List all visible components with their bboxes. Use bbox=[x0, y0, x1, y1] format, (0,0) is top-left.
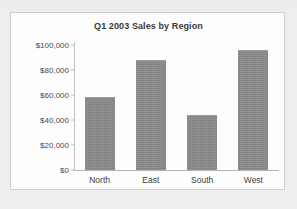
bar-group: South bbox=[177, 13, 228, 191]
bar bbox=[187, 115, 217, 170]
bar-group: West bbox=[228, 13, 279, 191]
x-axis-tick-label: South bbox=[177, 175, 228, 185]
scan-artifact-strip bbox=[0, 0, 297, 10]
chart-container: Q1 2003 Sales by Region $0$20,000$40,000… bbox=[10, 12, 285, 190]
x-axis-tick-label: North bbox=[74, 175, 125, 185]
y-axis-tick-label: $60,000 bbox=[11, 90, 69, 99]
bar-group: East bbox=[125, 13, 176, 191]
x-axis-tick-label: East bbox=[125, 175, 176, 185]
plot-area: $0$20,000$40,000$60,000$80,000$100,000 N… bbox=[11, 13, 286, 191]
bar bbox=[136, 60, 166, 170]
bar bbox=[238, 50, 268, 170]
y-axis-tick-label: $0 bbox=[11, 166, 69, 175]
y-axis-tick-label: $100,000 bbox=[11, 40, 69, 49]
y-axis-tick-label: $20,000 bbox=[11, 140, 69, 149]
bar-group: North bbox=[74, 13, 125, 191]
bar-series: NorthEastSouthWest bbox=[74, 13, 279, 191]
x-axis-tick-label: West bbox=[228, 175, 279, 185]
bar bbox=[85, 97, 115, 170]
y-axis-tick-label: $80,000 bbox=[11, 65, 69, 74]
y-axis-tick-label: $40,000 bbox=[11, 115, 69, 124]
